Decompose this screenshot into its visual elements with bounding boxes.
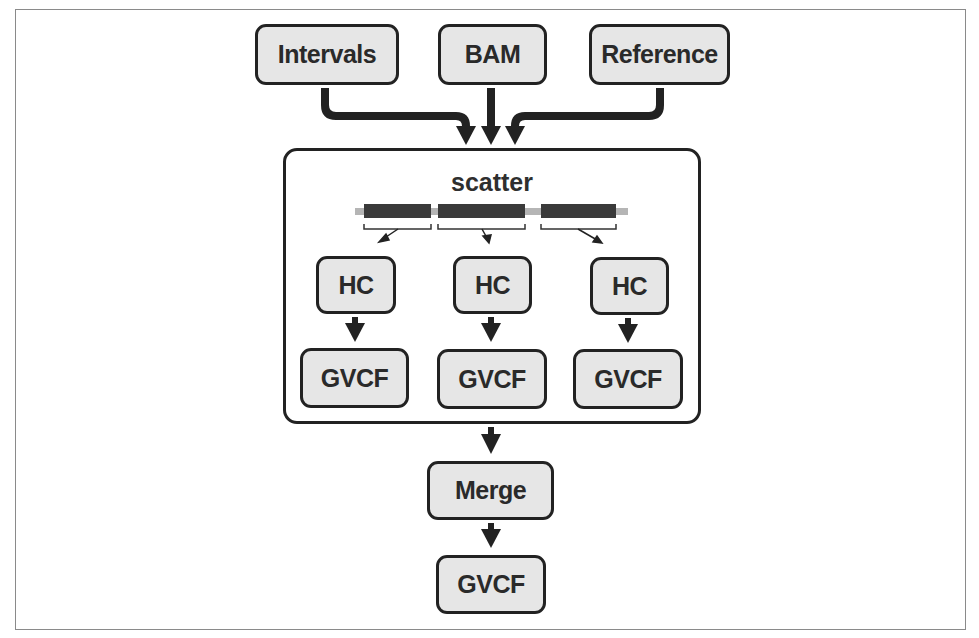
merge-node: Merge	[427, 461, 554, 520]
hc-node-2: HC	[453, 256, 532, 314]
hc-node-3: HC	[590, 257, 669, 315]
gvcf-node-1: GVCF	[300, 348, 409, 408]
gvcf-label-3: GVCF	[594, 365, 661, 394]
output-gvcf-node: GVCF	[436, 555, 546, 614]
intervals-label: Intervals	[278, 40, 376, 69]
gvcf-node-2: GVCF	[437, 349, 547, 409]
output-gvcf-label: GVCF	[457, 570, 524, 599]
reference-node: Reference	[589, 24, 730, 85]
merge-label: Merge	[455, 476, 526, 505]
reference-label: Reference	[601, 40, 717, 69]
bam-node: BAM	[438, 24, 547, 85]
bam-label: BAM	[465, 40, 520, 69]
gvcf-label-1: GVCF	[321, 364, 388, 393]
intervals-node: Intervals	[255, 24, 399, 85]
gvcf-label-2: GVCF	[458, 365, 525, 394]
scatter-title: scatter	[283, 168, 701, 197]
gvcf-node-3: GVCF	[573, 349, 683, 409]
hc-label-3: HC	[612, 272, 647, 301]
hc-label-2: HC	[475, 271, 510, 300]
hc-node-1: HC	[316, 256, 396, 314]
hc-label-1: HC	[338, 271, 373, 300]
